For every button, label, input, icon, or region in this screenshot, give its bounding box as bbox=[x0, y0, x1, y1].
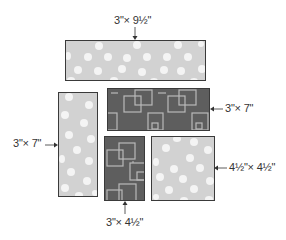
dot-pattern-icon bbox=[66, 41, 206, 81]
fabric-piece-top-strip bbox=[65, 40, 206, 81]
arrow-up-icon bbox=[121, 201, 129, 215]
arrow-down-icon bbox=[131, 27, 139, 41]
square-pattern-icon bbox=[108, 89, 210, 131]
label-dark-strip: 3"× 7" bbox=[225, 102, 253, 114]
fabric-piece-square bbox=[151, 136, 215, 201]
arrow-left-icon bbox=[214, 164, 228, 172]
label-top-strip: 3"× 9½" bbox=[114, 14, 151, 26]
dot-pattern-icon bbox=[152, 137, 215, 201]
arrow-right-icon bbox=[45, 141, 58, 149]
dot-pattern-icon bbox=[59, 93, 98, 197]
fabric-piece-left-strip bbox=[58, 92, 98, 197]
label-square: 4½"× 4½" bbox=[229, 161, 275, 173]
square-pattern-icon bbox=[105, 137, 145, 201]
label-small-dark: 3"× 4½" bbox=[106, 216, 143, 228]
label-left-strip: 3"× 7" bbox=[13, 137, 41, 149]
fabric-piece-dark-strip bbox=[107, 88, 210, 131]
arrow-left-icon bbox=[210, 105, 224, 113]
fabric-piece-small-dark bbox=[104, 136, 145, 201]
